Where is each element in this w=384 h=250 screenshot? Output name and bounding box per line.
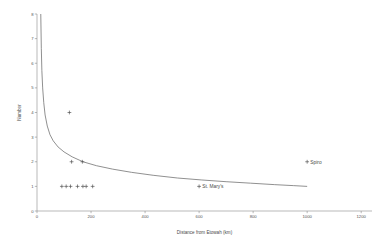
x-tick-label: 800 <box>250 214 258 219</box>
y-tick-label: 0 <box>31 209 34 214</box>
data-point-marker <box>69 184 73 188</box>
data-point-marker <box>80 160 84 164</box>
y-tick-label: 4 <box>31 110 34 115</box>
curve-path <box>41 14 307 186</box>
x-tick-label: 600 <box>196 214 204 219</box>
data-point-marker <box>84 184 88 188</box>
chart-container: 012345678 020040060080010001200 St. Mary… <box>0 0 384 250</box>
data-point-label: St. Mary's <box>202 184 224 189</box>
data-point-marker <box>60 184 64 188</box>
y-tick-label: 2 <box>31 159 34 164</box>
y-axis-ticks: 012345678 <box>31 12 37 214</box>
point-labels: St. Mary'sSpiro <box>202 160 322 190</box>
data-point-marker <box>91 184 95 188</box>
x-axis-ticks: 020040060080010001200 <box>36 211 367 219</box>
fitted-curve <box>41 14 307 186</box>
y-tick-label: 5 <box>31 85 34 90</box>
data-point-marker <box>68 111 72 115</box>
y-tick-label: 3 <box>31 135 34 140</box>
x-tick-label: 1200 <box>357 214 367 219</box>
data-point-marker <box>70 160 74 164</box>
y-tick-label: 7 <box>31 36 34 41</box>
data-point-marker <box>64 184 68 188</box>
y-axis-title: Number <box>17 104 22 121</box>
scatter-plot: 012345678 020040060080010001200 St. Mary… <box>0 0 384 250</box>
y-tick-label: 1 <box>31 184 34 189</box>
axes <box>37 14 372 211</box>
data-point-label: Spiro <box>310 160 322 165</box>
x-tick-label: 1000 <box>302 214 312 219</box>
data-point-marker <box>197 184 201 188</box>
x-tick-label: 400 <box>142 214 150 219</box>
data-point-marker <box>81 184 85 188</box>
x-axis-title: Distance from Etowah (km) <box>177 230 233 235</box>
x-tick-label: 200 <box>88 214 96 219</box>
data-point-marker <box>305 160 309 164</box>
data-point-marker <box>76 184 80 188</box>
data-points <box>60 111 309 189</box>
y-tick-label: 8 <box>31 12 34 17</box>
y-tick-label: 6 <box>31 61 34 66</box>
x-tick-label: 0 <box>36 214 39 219</box>
